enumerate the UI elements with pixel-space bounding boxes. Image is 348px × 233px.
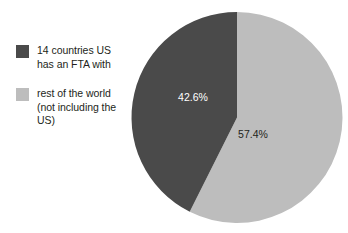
pie-slices bbox=[132, 12, 343, 223]
pie-chart-figure: 14 countries US has an FTA with rest of … bbox=[0, 0, 348, 233]
pie-label-rest-of-world: 57.4% bbox=[238, 128, 268, 140]
pie-svg: 42.6% 57.4% bbox=[0, 0, 348, 233]
pie-label-fta-countries: 42.6% bbox=[178, 91, 208, 103]
